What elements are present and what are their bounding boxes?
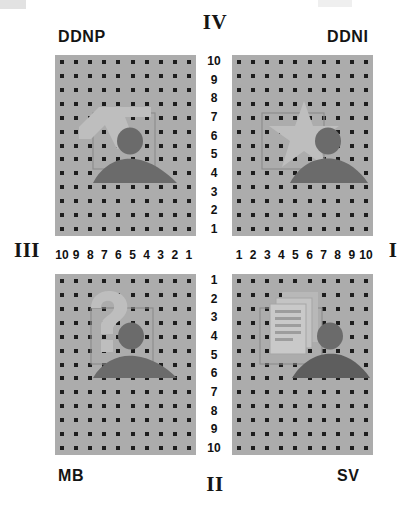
figure-body (93, 356, 177, 378)
quadrant-label-left: III (6, 238, 48, 263)
x-axis-scale-right: 12345678910 (232, 245, 373, 265)
axis-tick-label: 10 (196, 442, 232, 455)
axis-tick-label: 2 (168, 248, 182, 262)
panel-ddnp[interactable] (55, 55, 196, 236)
axis-tick-label: 8 (196, 405, 232, 418)
axis-tick-label: 7 (196, 386, 232, 399)
figure-body (93, 159, 177, 183)
axis-tick-label: 7 (196, 111, 232, 124)
axis-tick-label: 6 (302, 248, 316, 262)
axis-tick-label: 4 (196, 167, 232, 180)
axis-tick-label: 6 (111, 248, 125, 262)
axis-tick-label: 7 (317, 248, 331, 262)
figure-body (292, 354, 370, 378)
figure-head (315, 128, 341, 155)
panel-mb[interactable] (55, 274, 196, 455)
panel-label-ddnp: DDNP (58, 28, 106, 46)
quadrant-label-bottom: II (185, 472, 245, 497)
axis-tick-label: 6 (196, 130, 232, 143)
axis-tick-label: 1 (196, 274, 232, 287)
axis-tick-label: 9 (196, 423, 232, 436)
axis-tick-label: 4 (274, 248, 288, 262)
figure-head (117, 128, 143, 155)
figure-body (290, 159, 368, 183)
stimulus-shapes (232, 274, 373, 455)
stimulus-shapes (55, 55, 196, 236)
axis-tick-label: 8 (196, 92, 232, 105)
axis-tick-label: 3 (260, 248, 274, 262)
figure-head (317, 323, 343, 350)
axis-tick-label: 8 (331, 248, 345, 262)
quadrant-label-right: I (374, 238, 412, 263)
stimulus-shapes (232, 55, 373, 236)
axis-tick-label: 5 (288, 248, 302, 262)
axis-tick-label: 2 (196, 293, 232, 306)
axis-tick-label: 1 (196, 223, 232, 236)
axis-tick-label: 3 (196, 186, 232, 199)
axis-tick-label: 4 (140, 248, 154, 262)
axis-tick-label: 3 (154, 248, 168, 262)
panel-label-sv: SV (337, 467, 360, 485)
stimulus-shapes (55, 274, 196, 455)
axis-tick-label: 2 (196, 204, 232, 217)
axis-tick-label: 10 (359, 248, 373, 262)
axis-tick-label: 4 (196, 330, 232, 343)
axis-tick-label: 8 (83, 248, 97, 262)
axis-tick-label: 9 (345, 248, 359, 262)
panel-ddni[interactable] (232, 55, 373, 236)
y-axis-scale-bottom: 12345678910 (196, 274, 232, 455)
panel-label-ddni: DDNI (327, 28, 369, 46)
documents-stack-icon (270, 292, 318, 354)
axis-tick-label: 10 (196, 55, 232, 68)
figure-head (118, 323, 144, 350)
axis-tick-label: 6 (196, 367, 232, 380)
axis-tick-label: 10 (55, 248, 69, 262)
axis-tick-label: 5 (196, 349, 232, 362)
panel-label-mb: MB (58, 467, 84, 485)
x-axis-scale-left: 10987654321 (55, 245, 196, 265)
axis-tick-label: 2 (246, 248, 260, 262)
scan-artifact-top-left (0, 0, 26, 9)
axis-tick-label: 5 (125, 248, 139, 262)
axis-tick-label: 1 (182, 248, 196, 262)
axis-tick-label: 7 (97, 248, 111, 262)
axis-tick-label: 5 (196, 148, 232, 161)
y-axis-scale-top: 10987654321 (196, 55, 232, 236)
panel-sv[interactable] (232, 274, 373, 455)
axis-tick-label: 9 (69, 248, 83, 262)
axis-tick-label: 9 (196, 74, 232, 87)
quadrant-label-top: IV (185, 10, 245, 35)
axis-tick-label: 1 (232, 248, 246, 262)
quadrant-diagram: IV II III I DDNP DDNI MB SV (0, 0, 417, 510)
axis-tick-label: 3 (196, 311, 232, 324)
scan-artifact-top-right (318, 0, 352, 7)
